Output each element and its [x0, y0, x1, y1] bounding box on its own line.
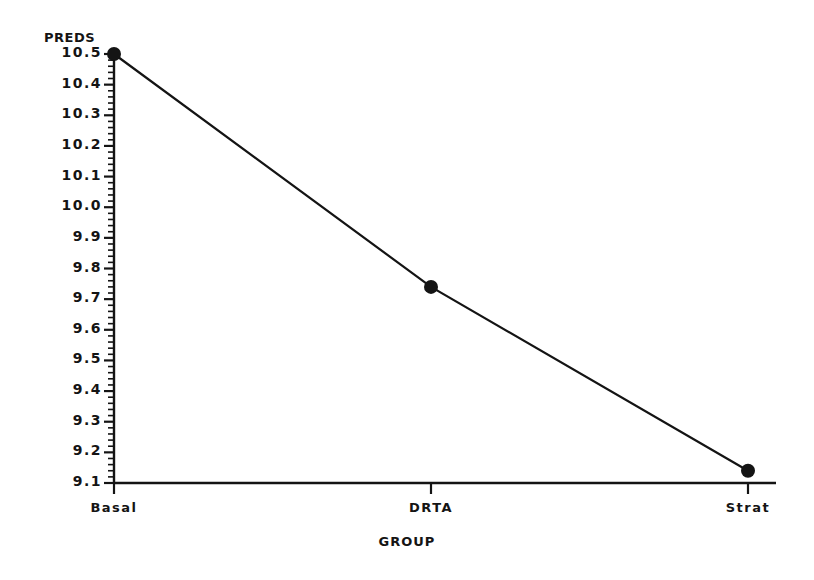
y-axis-tick-label: 9.3 [34, 412, 102, 428]
y-axis-tick-label: 10.2 [34, 136, 102, 152]
x-axis-ticks [114, 483, 748, 494]
y-axis-tick-label: 10.0 [34, 197, 102, 213]
y-axis-tick-label: 9.8 [34, 259, 102, 275]
y-axis-tick-label: 9.4 [34, 381, 102, 397]
y-axis-tick-label: 9.6 [34, 320, 102, 336]
data-point-markers [107, 47, 755, 478]
y-axis-tick-label: 10.3 [34, 105, 102, 121]
data-series-line [114, 54, 748, 471]
x-axis-tick-label: Basal [90, 500, 137, 515]
x-axis-tick-label: DRTA [409, 500, 453, 515]
data-point-marker [424, 280, 438, 294]
y-axis-tick-label: 9.2 [34, 442, 102, 458]
data-point-marker [107, 47, 121, 61]
y-axis-tick-label: 10.1 [34, 167, 102, 183]
data-point-marker [741, 464, 755, 478]
y-axis-major-ticks [104, 54, 114, 483]
y-axis-tick-label: 10.4 [34, 75, 102, 91]
y-axis-tick-label: 9.5 [34, 350, 102, 366]
y-axis-tick-label: 10.5 [34, 44, 102, 60]
y-axis-tick-label: 9.9 [34, 228, 102, 244]
axis-lines [114, 54, 776, 483]
y-axis-title: PREDS [44, 30, 95, 45]
y-axis-tick-label: 9.1 [34, 473, 102, 489]
line-chart-plot [0, 0, 814, 580]
y-axis-tick-label: 9.7 [34, 289, 102, 305]
chart-container: PREDS GROUP 10.510.410.310.210.110.09.99… [0, 0, 814, 580]
x-axis-tick-label: Strat [726, 500, 770, 515]
x-axis-title: GROUP [0, 534, 814, 549]
